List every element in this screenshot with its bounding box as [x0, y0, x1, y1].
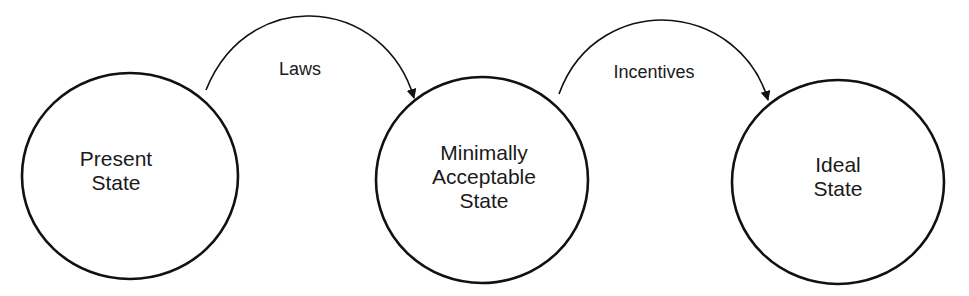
edge-incentives-arrow	[559, 20, 768, 100]
node-minimally-acceptable-state-label: Minimally Acceptable State	[432, 141, 536, 213]
edge-laws-arrow	[206, 16, 414, 98]
node-label-line: State	[80, 171, 152, 195]
node-present-state-label: Present State	[80, 147, 152, 195]
edge-incentives-label: Incentives	[613, 62, 694, 82]
edge-laws-label: Laws	[279, 59, 321, 79]
node-label-line: State	[813, 177, 862, 201]
node-label-line: Ideal	[813, 153, 862, 177]
node-label-line: State	[432, 189, 536, 213]
node-label-line: Present	[80, 147, 152, 171]
diagram-canvas: Present State Minimally Acceptable State…	[0, 0, 969, 296]
node-ideal-state-label: Ideal State	[813, 153, 862, 201]
node-label-line: Minimally	[432, 141, 536, 165]
node-label-line: Acceptable	[432, 165, 536, 189]
